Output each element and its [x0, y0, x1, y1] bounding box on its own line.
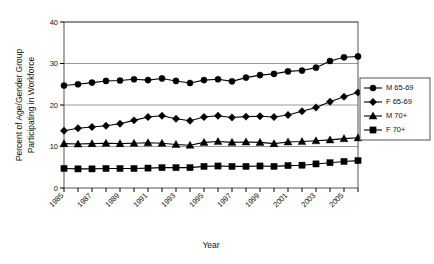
data-point-3-5	[131, 165, 137, 171]
data-point-1-9	[186, 117, 193, 124]
data-point-1-8	[172, 115, 179, 122]
data-point-1-14	[256, 113, 263, 120]
ytick-label-40: 40	[50, 18, 58, 27]
legend-label-2: M 70+	[386, 111, 408, 120]
legend-label-0: M 65-69	[386, 83, 414, 92]
data-point-3-14	[257, 163, 263, 169]
legend: M 65-69F 65-69M 70+F 70+	[360, 78, 430, 140]
data-point-2-11	[214, 138, 222, 145]
data-point-0-6	[145, 77, 151, 83]
ytick-label-20: 20	[50, 101, 58, 110]
data-point-0-17	[299, 67, 305, 73]
data-point-3-16	[285, 162, 291, 168]
data-point-3-17	[299, 162, 305, 168]
data-point-0-19	[327, 58, 333, 64]
data-point-1-10	[200, 113, 207, 120]
data-point-3-1	[75, 166, 81, 172]
data-point-0-7	[159, 75, 165, 81]
data-point-3-20	[341, 158, 347, 164]
y-axis-title-line2: Participating in Workforce	[26, 56, 36, 153]
xtick-label-1997: 1997	[215, 191, 233, 209]
data-point-1-6	[144, 113, 151, 120]
data-point-3-4	[117, 165, 123, 171]
data-point-3-7	[159, 165, 165, 171]
data-point-1-5	[130, 117, 137, 124]
legend-marker-0	[370, 85, 376, 91]
data-point-0-0	[61, 82, 67, 88]
xtick-label-1995: 1995	[187, 191, 205, 209]
data-point-1-12	[228, 114, 235, 121]
xtick-label-1985: 1985	[47, 191, 65, 209]
data-point-3-19	[327, 160, 333, 166]
data-point-3-2	[89, 166, 95, 172]
data-point-3-18	[313, 161, 319, 167]
data-point-3-3	[103, 165, 109, 171]
data-point-0-16	[285, 68, 291, 74]
data-point-0-18	[313, 65, 319, 71]
xtick-label-2003: 2003	[299, 191, 317, 209]
chart-canvas: 0102030401985198719891991199319951997199…	[0, 0, 434, 264]
data-point-1-20	[340, 93, 347, 100]
data-point-3-15	[271, 163, 277, 169]
data-point-1-13	[242, 113, 249, 120]
series-m-65-69	[61, 53, 361, 88]
xtick-label-1993: 1993	[159, 191, 177, 209]
data-point-0-2	[89, 79, 95, 85]
data-point-3-8	[173, 165, 179, 171]
data-point-0-11	[215, 76, 221, 82]
data-point-1-17	[298, 108, 305, 115]
ytick-label-30: 30	[50, 59, 58, 68]
xtick-label-1989: 1989	[103, 191, 121, 209]
data-point-0-12	[229, 78, 235, 84]
data-point-1-2	[88, 123, 95, 130]
data-point-3-10	[201, 163, 207, 169]
data-point-3-6	[145, 165, 151, 171]
data-point-1-3	[102, 122, 109, 129]
y-axis-title-line1: Percent of Age/Gender Group	[14, 49, 24, 162]
xtick-label-1987: 1987	[75, 191, 93, 209]
xtick-label-1991: 1991	[131, 191, 149, 209]
data-point-1-1	[74, 125, 81, 132]
series-f-70-	[61, 158, 361, 173]
data-point-3-0	[61, 165, 67, 171]
data-point-3-21	[355, 158, 361, 164]
data-point-1-11	[214, 112, 221, 119]
data-point-0-13	[243, 75, 249, 81]
ytick-label-10: 10	[50, 142, 58, 151]
data-point-0-1	[75, 81, 81, 87]
xtick-label-2005: 2005	[327, 191, 345, 209]
data-point-1-19	[326, 98, 333, 105]
x-axis-title: Year	[202, 240, 219, 250]
series-f-65-69	[60, 89, 361, 135]
xtick-label-1999: 1999	[243, 191, 261, 209]
data-point-0-9	[187, 80, 193, 86]
data-point-1-0	[60, 127, 67, 134]
data-point-0-3	[103, 78, 109, 84]
data-point-3-13	[243, 163, 249, 169]
data-point-0-21	[355, 53, 361, 59]
data-point-0-8	[173, 78, 179, 84]
legend-marker-3	[370, 127, 376, 133]
legend-label-3: F 70+	[386, 125, 406, 134]
data-point-1-15	[270, 113, 277, 120]
data-point-3-11	[215, 163, 221, 169]
workforce-participation-chart: 0102030401985198719891991199319951997199…	[0, 0, 434, 264]
data-point-0-4	[117, 77, 123, 83]
data-point-3-9	[187, 165, 193, 171]
data-point-0-20	[341, 54, 347, 60]
data-point-0-10	[201, 77, 207, 83]
data-point-1-16	[284, 111, 291, 118]
data-point-0-5	[131, 76, 137, 82]
data-point-3-12	[229, 163, 235, 169]
data-point-0-14	[257, 72, 263, 78]
legend-label-1: F 65-69	[386, 97, 412, 106]
data-point-0-15	[271, 71, 277, 77]
data-point-1-7	[158, 112, 165, 119]
xtick-label-2001: 2001	[271, 191, 289, 209]
data-point-1-4	[116, 120, 123, 127]
